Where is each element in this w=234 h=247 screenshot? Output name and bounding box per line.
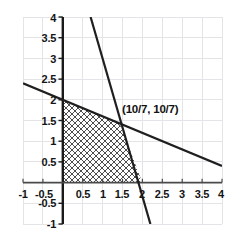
y-tick-label-2-5: 2.5 [34,74,56,85]
y-tick-label-3: 3 [42,54,56,65]
x-tick-label-1: 1 [100,189,106,200]
x-tick-label-3: 3 [179,189,185,200]
y-tick-label-4: 4 [42,13,56,24]
y-tick-label-1: 1 [42,136,56,147]
y-tick-label-2: 2 [42,95,56,106]
x-tick-label-neg-0-5: -0.5 [35,189,53,200]
x-tick-label-1-5: 1.5 [115,189,129,200]
x-tick-label-2: 2 [139,189,145,200]
x-tick-label-3-5: 3.5 [195,189,209,200]
y-tick-label-neg-1: -1 [39,219,56,230]
x-tick-label-2-5: 2.5 [155,189,169,200]
y-tick-label-1-5: 1.5 [34,116,56,127]
x-tick-label-neg-1: -1 [18,189,27,200]
x-tick-label-0-5: 0.5 [76,189,90,200]
y-tick-label-0-5: 0.5 [34,157,56,168]
x-tick-label-4: 4 [218,189,224,200]
y-tick-label-3-5: 3.5 [34,33,56,44]
intersection-point-label: (10/7, 10/7) [122,103,178,115]
graph-figure: 4 3.5 3 2.5 2 1.5 1 0.5 -0.5 -1 -1 -0.5 … [0,0,234,247]
